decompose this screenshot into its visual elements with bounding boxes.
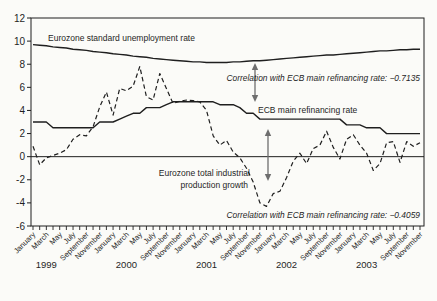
plot-frame [31, 18, 424, 226]
series-unemployment-line [33, 45, 420, 63]
year-label: 2002 [276, 259, 297, 270]
y-tick-label: -4 [16, 197, 25, 208]
y-tick-label: -2 [16, 174, 25, 185]
label-industrial-line1: Eurozone total industrial [159, 168, 250, 178]
y-tick-label: 4 [19, 105, 25, 116]
y-tick-label: -6 [16, 221, 25, 232]
label-unemployment: Eurozone standard unemployment rate [48, 33, 195, 43]
y-tick-label: 10 [14, 36, 26, 47]
y-axis: 121086420-2-4-6 [14, 13, 31, 232]
y-tick-label: 6 [19, 82, 25, 93]
chart-svg: 121086420-2-4-6JanuaryMarchMayJulySeptem… [0, 0, 437, 301]
label-correlation-industrial: Correlation with ECB main refinancing ra… [227, 210, 421, 220]
gap-arrow-lower [265, 129, 271, 181]
y-tick-label: 8 [19, 59, 25, 70]
year-label: 1999 [36, 259, 57, 270]
label-correlation-unemployment: Correlation with ECB main refinancing ra… [227, 73, 421, 83]
year-label: 2003 [356, 259, 377, 270]
y-tick-label: 12 [14, 13, 26, 24]
year-label: 2001 [196, 259, 217, 270]
y-tick-label: 2 [19, 128, 25, 139]
chart-figure: 121086420-2-4-6JanuaryMarchMayJulySeptem… [0, 0, 437, 301]
x-axis: JanuaryMarchMayJulySeptemberNovember1999… [12, 226, 425, 270]
label-industrial-line2: production growth [180, 180, 248, 190]
label-ecb-rate: ECB main refinancing rate [258, 105, 357, 115]
year-label: 2000 [116, 259, 137, 270]
y-tick-label: 0 [19, 151, 25, 162]
